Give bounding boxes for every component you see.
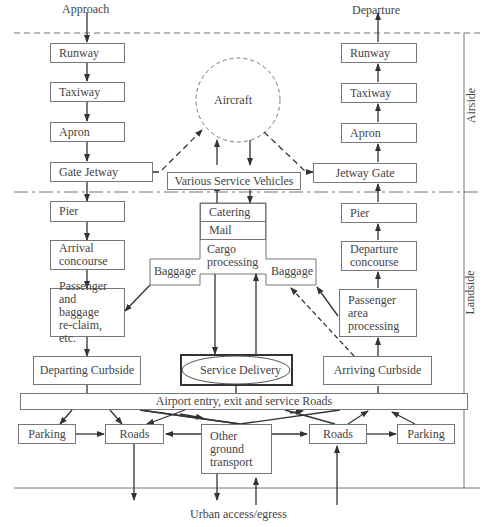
departure-label: Departure: [352, 3, 400, 18]
service-delivery-label: Service Delivery: [200, 363, 281, 378]
arrival-runway-box: Runway: [50, 43, 125, 63]
parking-left-box: Parking: [18, 424, 76, 444]
departure-taxiway-box: Taxiway: [341, 83, 417, 103]
landside-label: Landside: [463, 271, 478, 315]
mail-box: Mail: [200, 221, 266, 240]
entry-roads-bar: Airport entry, exit and service Roads: [20, 393, 468, 410]
arrival-concourse-box: Arrivalconcourse: [50, 240, 125, 270]
departure-apron-box: Apron: [341, 123, 417, 143]
airside-label: Airside: [464, 88, 479, 123]
arrival-pier-box: Pier: [50, 201, 125, 222]
cargo-processing-label: Cargoprocessing: [207, 243, 258, 269]
baggage-reclaim-box: Passengerand baggagere-claim, etc.: [50, 288, 125, 337]
jetway-gate-box: Jetway Gate: [313, 163, 417, 183]
departing-curbside-box: Departing Curbside: [33, 356, 141, 385]
other-ground-transport-box: Othergroundtransport: [201, 424, 272, 474]
arriving-curbside-box: Arriving Curbside: [323, 356, 432, 385]
departure-concourse-box: Departureconcourse: [341, 241, 417, 271]
roads-left-box: Roads: [105, 424, 164, 444]
approach-label: Approach: [62, 2, 109, 17]
arrival-taxiway-box: Taxiway: [50, 82, 125, 102]
gate-jetway-box: Gate Jetway: [50, 162, 153, 182]
parking-right-box: Parking: [397, 424, 455, 444]
aircraft-label: Aircraft: [214, 93, 252, 108]
departure-pier-box: Pier: [341, 203, 417, 223]
baggage-left-label: Baggage: [154, 264, 196, 279]
urban-access-label: Urban access/egress: [190, 507, 287, 522]
service-vehicles-box: Various Service Vehicles: [167, 172, 301, 190]
arrival-apron-box: Apron: [50, 122, 125, 142]
baggage-right-label: Baggage: [271, 264, 313, 279]
passenger-processing-box: Passengerareaprocessing: [339, 289, 417, 337]
catering-box: Catering: [200, 203, 266, 222]
roads-right-box: Roads: [309, 424, 367, 444]
departure-runway-box: Runway: [341, 43, 417, 63]
